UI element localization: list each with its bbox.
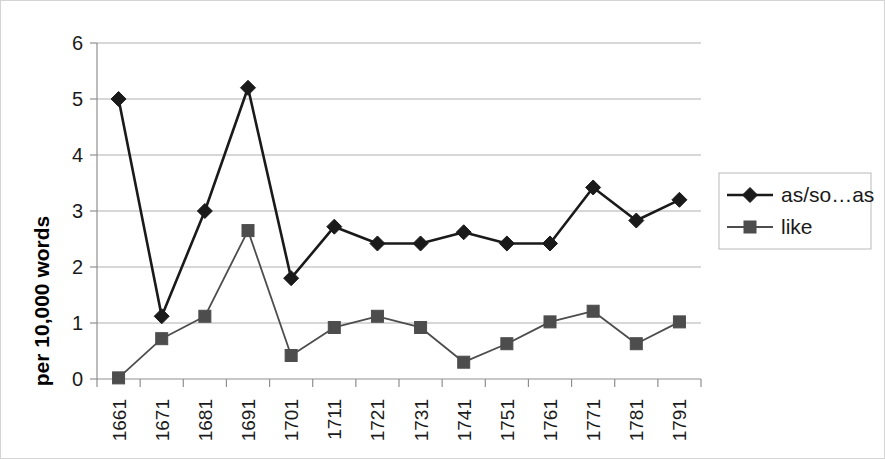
data-point-marker [630, 338, 642, 350]
x-axis-tick-label: 1741 [454, 399, 475, 441]
x-axis-tick-label: 1791 [669, 399, 690, 441]
data-point-marker [242, 225, 254, 237]
data-point-marker [156, 333, 168, 345]
data-point-marker [673, 316, 685, 328]
data-point-marker [154, 309, 169, 324]
legend-marker-swatch [744, 221, 756, 233]
data-point-marker [371, 310, 383, 322]
data-point-marker [501, 338, 513, 350]
x-axis-tick-label: 1721 [367, 399, 388, 441]
y-axis-title: per 10,000 words [30, 216, 53, 386]
y-axis-tick-labels: 0123456 [72, 32, 97, 390]
data-point-marker [672, 192, 687, 207]
chart-figure: 0123456 16611671168116911701171117211731… [0, 0, 885, 459]
data-point-marker [113, 372, 125, 384]
y-axis-tick-label: 5 [72, 88, 83, 110]
x-axis-tick-label: 1681 [195, 399, 216, 441]
data-point-marker [458, 356, 470, 368]
x-axis-tick-label: 1691 [238, 399, 259, 441]
x-axis-tickmarks [97, 379, 701, 387]
x-axis-tick-label: 1781 [626, 399, 647, 441]
x-axis-tick-label: 1771 [583, 399, 604, 441]
data-point-marker [415, 321, 427, 333]
data-point-marker [413, 236, 428, 251]
y-axis-title-text: per 10,000 words [30, 216, 53, 386]
y-axis-tick-label: 6 [72, 32, 83, 54]
chart-legend: as/so…aslike [719, 173, 874, 249]
data-point-marker [199, 310, 211, 322]
y-axis-tick-label: 3 [72, 200, 83, 222]
legend-label: as/so…as [781, 183, 874, 206]
y-axis-tick-label: 2 [72, 256, 83, 278]
series-line [119, 88, 680, 316]
y-axis-tick-label: 1 [72, 312, 83, 334]
data-point-marker [370, 236, 385, 251]
x-axis-tick-label: 1671 [152, 399, 173, 441]
data-point-marker [197, 204, 212, 219]
gridline-group [97, 43, 701, 323]
series-1 [111, 80, 687, 323]
data-point-marker [285, 349, 297, 361]
series-line [119, 231, 680, 378]
line-chart: 0123456 16611671168116911701171117211731… [1, 1, 885, 459]
x-axis-tick-labels: 1661167116811691170117111721173117411751… [109, 399, 691, 441]
data-point-marker [328, 321, 340, 333]
data-point-marker [544, 316, 556, 328]
data-series-group [111, 80, 687, 384]
data-point-marker [456, 225, 471, 240]
series-2 [113, 225, 686, 384]
data-point-marker [499, 236, 514, 251]
x-axis-tick-label: 1731 [411, 399, 432, 441]
y-axis-tick-label: 0 [72, 368, 83, 390]
x-axis-tick-label: 1661 [109, 399, 130, 441]
x-axis-tick-label: 1711 [324, 399, 345, 440]
x-axis-tick-label: 1751 [497, 399, 518, 441]
x-axis-tick-label: 1701 [281, 399, 302, 441]
y-axis-tick-label: 4 [72, 144, 83, 166]
data-point-marker [587, 305, 599, 317]
x-axis-tick-label: 1761 [540, 399, 561, 441]
data-point-marker [111, 92, 126, 107]
data-point-marker [241, 80, 256, 95]
legend-label: like [781, 215, 813, 238]
